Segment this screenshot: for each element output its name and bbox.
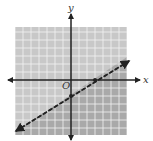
x-axis-label: x [143, 74, 149, 85]
coordinate-plane: x y O [0, 0, 153, 141]
point-y-intercept [69, 94, 73, 98]
point-x-intercept [93, 78, 97, 82]
origin-label: O [62, 80, 70, 91]
y-axis-label: y [67, 2, 74, 13]
